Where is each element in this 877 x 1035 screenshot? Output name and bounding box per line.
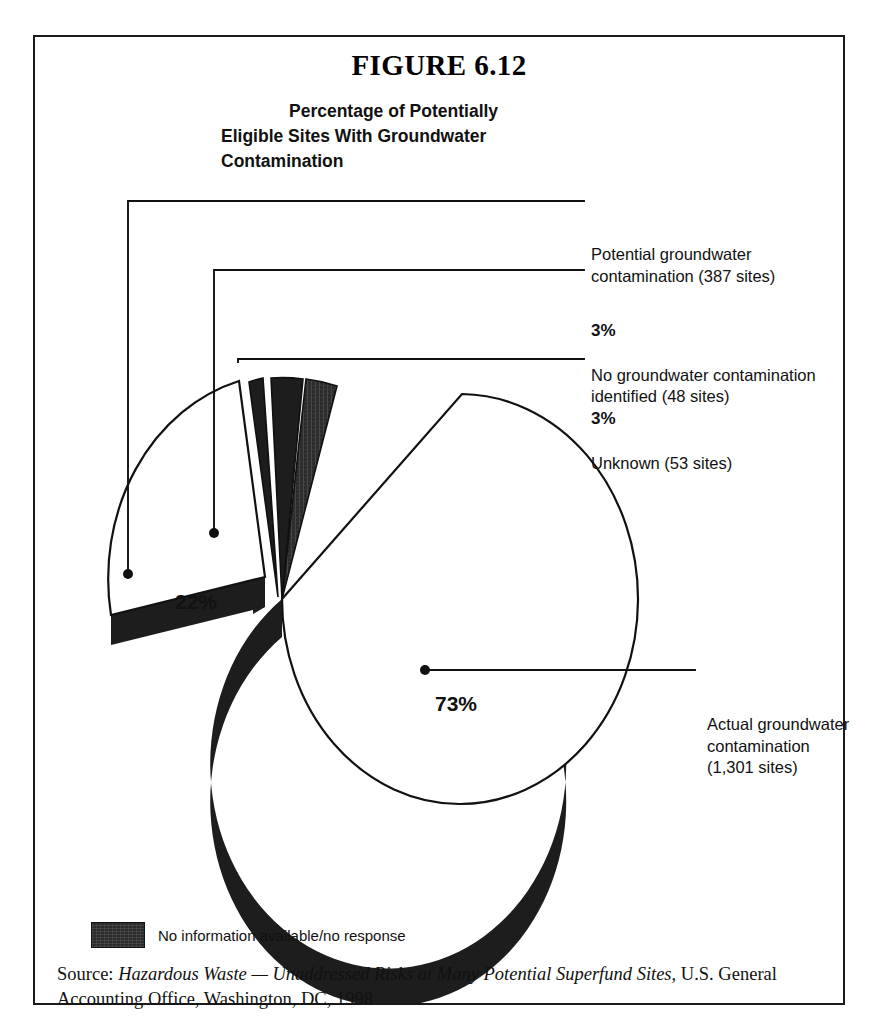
pie-slice-actual	[282, 394, 638, 804]
pie-label-22-percent: 22%	[175, 590, 217, 614]
callout-no-contamination-percent: 3%	[591, 320, 861, 342]
leader-dot-actual	[420, 665, 430, 675]
legend: No information available/no response	[91, 922, 406, 948]
source-prefix: Source:	[57, 964, 118, 984]
callout-unknown: 3% Unknown (53 sites)	[591, 387, 841, 474]
callout-unknown-percent: 3%	[591, 408, 841, 430]
callout-actual-text: Actual groundwater contamination (1,301 …	[707, 715, 849, 776]
callout-potential-text: Potential groundwater contamination (387…	[591, 245, 775, 284]
callout-potential-contamination: Potential groundwater contamination (387…	[591, 223, 851, 287]
pie-chart	[35, 37, 843, 1003]
leader-line-unknown	[238, 359, 584, 362]
callout-actual-contamination: Actual groundwater contamination (1,301 …	[707, 693, 877, 779]
leader-dot-none	[209, 528, 219, 538]
source-title: Hazardous Waste — Unaddressed Risks at M…	[118, 964, 671, 984]
pie-slice-potential	[108, 381, 265, 615]
pie-label-73-percent: 73%	[435, 692, 477, 716]
figure-frame: FIGURE 6.12 Percentage of Potentially El…	[33, 35, 845, 1005]
source-citation: Source: Hazardous Waste — Unaddressed Ri…	[57, 962, 827, 1012]
no-information-swatch-icon	[91, 922, 145, 948]
callout-unknown-text: Unknown (53 sites)	[591, 454, 732, 472]
leader-dot-potential	[123, 569, 133, 579]
legend-label: No information available/no response	[158, 927, 406, 944]
